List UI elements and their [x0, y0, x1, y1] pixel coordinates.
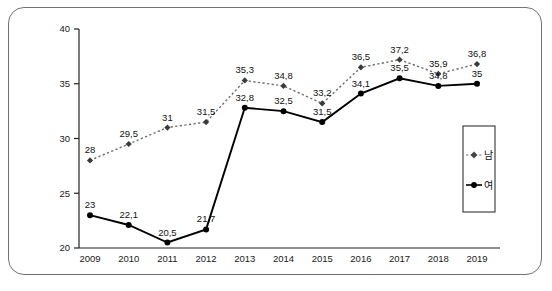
legend-swatch-yeo-marker: [471, 182, 477, 188]
x-tick-label: 2013: [234, 253, 255, 264]
data-point-marker: [397, 75, 403, 81]
data-point-marker: [280, 83, 286, 89]
line-chart: 2025303540 20092010201120122013201420152…: [0, 0, 552, 291]
data-point-marker: [474, 81, 480, 87]
data-point-label: 37,2: [390, 44, 409, 55]
data-point-label: 36,5: [352, 51, 371, 62]
data-point-label: 31,5: [197, 106, 216, 117]
data-point-marker: [474, 61, 480, 67]
data-point-marker: [164, 240, 170, 246]
data-point-label: 33,2: [313, 87, 332, 98]
y-axis-ticks: 2025303540: [59, 23, 79, 253]
data-point-label: 22,1: [119, 209, 138, 220]
x-tick-label: 2017: [389, 253, 410, 264]
data-point-label: 35,9: [429, 58, 448, 69]
data-point-label: 23: [85, 199, 96, 210]
y-tick-label: 35: [59, 78, 70, 89]
data-point-marker: [87, 157, 93, 163]
data-point-label: 35: [472, 68, 483, 79]
data-point-label: 31,5: [313, 106, 332, 117]
x-tick-label: 2016: [350, 253, 371, 264]
data-point-marker: [126, 222, 132, 228]
x-tick-label: 2019: [466, 253, 487, 264]
data-point-label: 29,5: [119, 128, 138, 139]
chart-container: 2025303540 20092010201120122013201420152…: [0, 0, 552, 291]
data-point-label: 36,8: [468, 48, 487, 59]
data-point-label: 28: [85, 144, 96, 155]
data-point-label: 34,8: [429, 70, 448, 81]
data-point-marker: [203, 226, 209, 232]
data-point-marker: [358, 64, 364, 70]
data-point-marker: [281, 108, 287, 114]
data-point-label: 21,7: [197, 213, 216, 224]
data-point-label: 34,8: [274, 70, 293, 81]
y-tick-label: 30: [59, 133, 70, 144]
data-point-label: 32,5: [274, 95, 293, 106]
data-point-marker: [242, 105, 248, 111]
data-point-marker: [126, 141, 132, 147]
x-tick-label: 2010: [118, 253, 139, 264]
x-axis-ticks: 2009201020112012201320142015201620172018…: [79, 253, 487, 264]
data-point-label: 20,5: [158, 227, 177, 238]
data-point-label: 35,5: [390, 62, 409, 73]
data-point-marker: [358, 91, 364, 97]
x-tick-label: 2015: [312, 253, 333, 264]
y-tick-label: 40: [59, 23, 70, 34]
legend-box: [463, 126, 495, 212]
data-point-marker: [319, 119, 325, 125]
x-tick-label: 2014: [273, 253, 294, 264]
x-tick-label: 2009: [79, 253, 100, 264]
x-tick-label: 2012: [196, 253, 217, 264]
x-tick-label: 2018: [428, 253, 449, 264]
x-tick-label: 2011: [157, 253, 177, 264]
legend-label-yeo: 여: [484, 180, 493, 191]
data-point-label: 35,3: [236, 64, 255, 75]
legend[interactable]: 남 여: [463, 126, 495, 212]
y-tick-label: 25: [59, 188, 70, 199]
data-point-marker: [435, 83, 441, 89]
data-point-marker: [164, 124, 170, 130]
data-point-marker: [87, 212, 93, 218]
data-point-label: 34,1: [352, 78, 371, 89]
data-point-label: 32,8: [236, 92, 255, 103]
legend-label-nam: 남: [484, 150, 493, 161]
data-point-label: 31: [162, 112, 173, 123]
y-tick-label: 20: [59, 242, 70, 253]
